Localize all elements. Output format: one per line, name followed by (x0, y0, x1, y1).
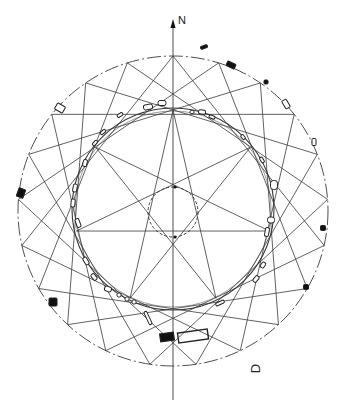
star-edge (173, 110, 216, 298)
stones (16, 44, 325, 343)
inner-stone (259, 157, 265, 164)
stone-circle-diagram (0, 0, 341, 417)
lattice-chord (260, 83, 278, 325)
inner-stone (125, 297, 129, 301)
lattice-chord (68, 83, 86, 325)
inner-stone (198, 109, 206, 114)
outer-stone (282, 99, 291, 109)
center-marker-top (173, 185, 176, 188)
inner-stone (75, 218, 82, 228)
outer-stone (54, 103, 65, 114)
north-label: N (178, 14, 186, 26)
lattice-chord (29, 154, 150, 364)
star-edge (130, 110, 173, 298)
outer-stone (312, 139, 316, 146)
inner-stone (252, 275, 260, 283)
inner-stone (190, 111, 194, 114)
star-edge (96, 147, 216, 298)
outer-stone (200, 44, 208, 49)
inner-stone (144, 311, 153, 325)
outer-stone (49, 298, 57, 306)
lattice-chord (68, 289, 308, 325)
inner-stone (158, 101, 166, 106)
center-marker-bottom (173, 235, 176, 238)
inner-stone (143, 104, 153, 110)
outer-stone (304, 285, 309, 290)
feature-block-filled (160, 332, 175, 342)
feature-block-outline (177, 329, 208, 343)
inner-stone (117, 112, 124, 118)
outer-stone (226, 61, 236, 69)
inner-stone (215, 300, 224, 307)
lattice-chord (173, 56, 324, 245)
outer-stone (321, 226, 326, 231)
lattice-chord (39, 289, 279, 325)
lattice-chord (22, 56, 173, 245)
outer-stone (264, 80, 268, 84)
inner-stone (90, 273, 98, 281)
inner-stone (72, 184, 77, 193)
lattice-chord (196, 154, 317, 364)
north-arrow-head (171, 19, 176, 28)
north-arrow-icon (171, 19, 176, 28)
inner-stone (264, 227, 270, 237)
outer-stone (16, 188, 26, 199)
inner-stone (117, 293, 121, 297)
lattice-chord (86, 83, 318, 154)
inner-stone (132, 300, 136, 304)
star-edge (130, 147, 250, 298)
inner-stone (71, 199, 76, 207)
inner-stone (268, 217, 275, 223)
corner-letter-label: D (248, 364, 263, 373)
inner-stone (240, 134, 246, 140)
inner-stone (104, 285, 112, 292)
inner-stone (271, 181, 278, 190)
lattice-chord (29, 83, 261, 154)
